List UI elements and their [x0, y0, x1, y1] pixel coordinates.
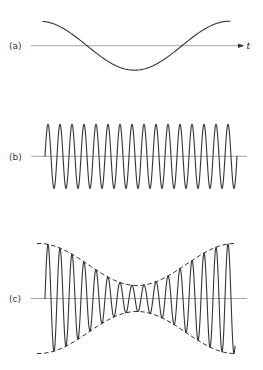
- time-axis-arrowhead-icon: [238, 44, 245, 48]
- panel-a: (a) t: [9, 21, 251, 70]
- panel-c: (c): [9, 244, 247, 354]
- figure-canvas: (a) t (b) (c): [0, 0, 263, 370]
- envelope-lower-dashed: [37, 312, 235, 354]
- panel-a-label: (a): [9, 41, 22, 51]
- panel-c-label: (c): [9, 294, 21, 304]
- panel-b: (b): [9, 124, 247, 188]
- am-modulation-figure: (a) t (b) (c): [0, 0, 263, 370]
- panel-b-label: (b): [9, 152, 22, 162]
- time-axis-label: t: [247, 40, 251, 51]
